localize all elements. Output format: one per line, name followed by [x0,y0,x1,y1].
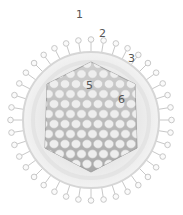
label-1: 1 [76,9,83,20]
label-2: 2 [99,28,106,39]
virus-illustration [0,0,183,215]
label-6: 6 [118,94,125,105]
virus-diagram: 1 2 3 5 6 [0,0,183,215]
label-3: 3 [128,53,135,64]
label-5: 5 [86,80,93,91]
